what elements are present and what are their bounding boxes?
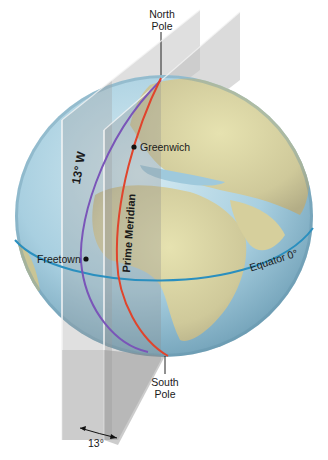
greenwich-dot — [131, 144, 136, 149]
north-pole-label-line2: Pole — [143, 20, 181, 32]
north-pole-label: North Pole — [143, 8, 181, 32]
north-pole-label-line1: North — [143, 8, 181, 20]
freetown-label: Freetown — [37, 253, 81, 265]
angle-label: 13° — [88, 437, 104, 449]
south-pole-label: South Pole — [146, 376, 184, 400]
freetown-dot — [83, 256, 88, 261]
globe — [15, 75, 313, 357]
south-pole-label-line1: South — [146, 376, 184, 388]
greenwich-label: Greenwich — [140, 141, 190, 153]
globe-diagram: North Pole Greenwich Freetown 13° W Prim… — [0, 0, 328, 460]
south-pole-label-line2: Pole — [146, 388, 184, 400]
